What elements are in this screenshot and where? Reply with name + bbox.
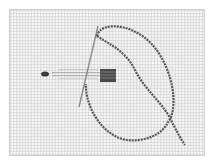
thread-knot <box>41 72 49 77</box>
needlework-illustration <box>0 0 217 167</box>
stitched-block <box>100 69 116 82</box>
stitch-row <box>52 69 100 79</box>
needle <box>79 26 98 107</box>
thread-loop <box>86 26 174 140</box>
